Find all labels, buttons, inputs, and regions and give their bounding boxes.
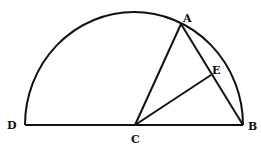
label-C: C (131, 133, 140, 146)
geometry-figure: A E D C B (0, 0, 261, 146)
label-D: D (7, 119, 17, 132)
semicircle-arc (25, 12, 243, 125)
semicircle-diagram: A E D C B (0, 0, 261, 146)
label-E: E (212, 64, 220, 77)
label-B: B (248, 120, 257, 133)
label-A: A (182, 12, 192, 25)
